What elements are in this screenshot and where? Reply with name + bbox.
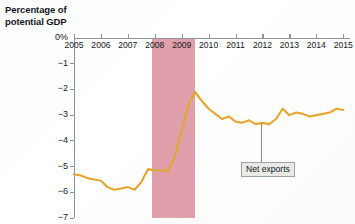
callout-label: Net exports bbox=[246, 164, 290, 174]
series-layer bbox=[0, 0, 355, 224]
chart-figure: Percentage of potential GDP 0%−1−2−3−4−5… bbox=[0, 0, 355, 224]
net-exports-callout: Net exports bbox=[241, 162, 295, 178]
series-line-net-exports bbox=[74, 92, 343, 190]
callout-leader-line bbox=[261, 123, 262, 162]
